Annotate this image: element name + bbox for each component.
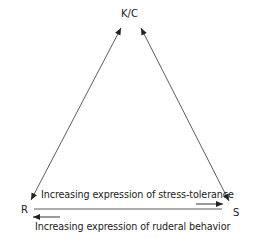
- triangle-diagram: [0, 0, 254, 239]
- vertex-label-r: R: [21, 205, 28, 215]
- edge-s-kc: [141, 28, 229, 201]
- vertex-label-kc: K/C: [121, 9, 138, 19]
- edge-r-kc: [31, 28, 121, 200]
- vertex-label-s: S: [233, 208, 239, 218]
- caption-ruderal-behavior: Increasing expression of ruderal behavio…: [35, 222, 230, 232]
- caption-stress-tolerance: Increasing expression of stress-toleranc…: [41, 190, 234, 200]
